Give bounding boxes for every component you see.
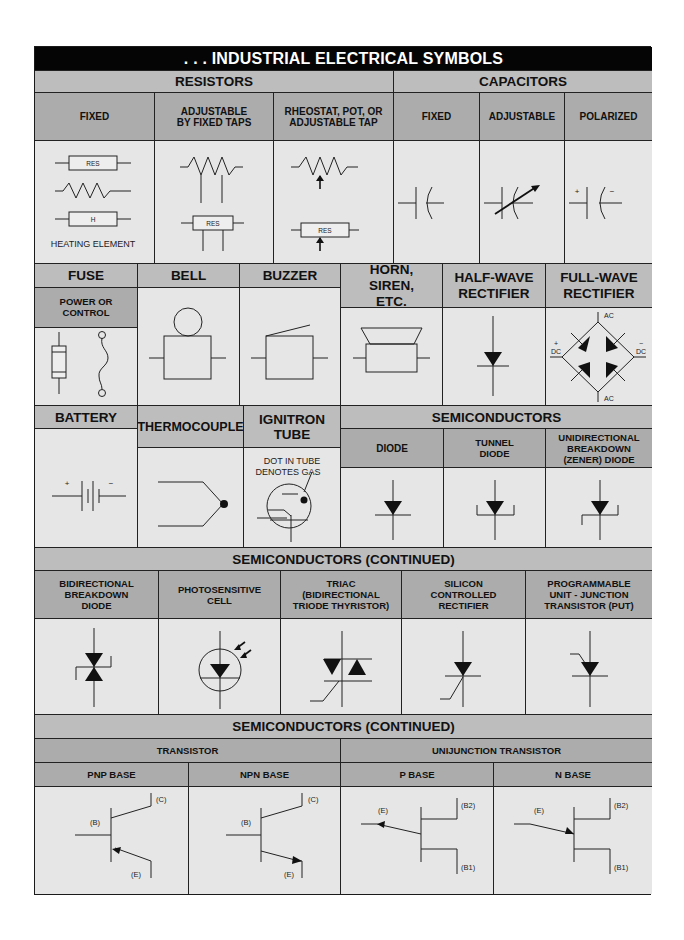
zener-diode-icon [546, 468, 652, 548]
triac-symbol [281, 619, 402, 715]
pnp-symbol: (C) (B) (E) [35, 787, 189, 894]
fuse-header: FUSE [35, 264, 138, 288]
bell-header: BELL [138, 264, 240, 288]
ujt-header: UNIJUNCTION TRANSISTOR [341, 739, 652, 763]
photosensitive-header: PHOTOSENSITIVE CELL [159, 571, 281, 619]
ignitron-symbol: DOT IN TUBE DENOTES GAS [244, 448, 341, 548]
semiconductors-continued-header-1: SEMICONDUCTORS (CONTINUED) [35, 548, 652, 571]
tunnel-diode-symbol [444, 468, 546, 548]
rheostat-symbols: RES [274, 141, 394, 264]
pnp-header: PNP BASE [35, 763, 189, 787]
svg-text:DC: DC [551, 348, 561, 355]
capacitor-fixed-symbol [394, 141, 480, 264]
svg-text:−: − [639, 340, 643, 347]
ignitron-tube-icon: DOT IN TUBE DENOTES GAS [244, 448, 341, 548]
svg-text:(E): (E) [378, 806, 389, 815]
capacitor-polarized-icon: + − [565, 141, 652, 264]
battery-header: BATTERY [35, 406, 138, 429]
tunnel-diode-icon [444, 468, 546, 548]
svg-text:DOT IN TUBE: DOT IN TUBE [264, 456, 321, 466]
rheostat-icon: RES [274, 141, 394, 264]
thermocouple-symbol [138, 448, 244, 548]
svg-text:(B): (B) [241, 818, 252, 827]
chart-title: . . . INDUSTRIAL ELECTRICAL SYMBOLS [35, 47, 652, 71]
diode-symbol [341, 468, 444, 548]
p-base-ujt-icon: (B2) (B1) (E) [341, 787, 494, 894]
capacitor-fixed-header: FIXED [394, 93, 480, 141]
bidirectional-symbol [35, 619, 159, 715]
put-icon [526, 619, 652, 715]
ignitron-header: IGNITRON TUBE [244, 406, 341, 448]
resistor-fixed-icon: RES H HEATING ELEMENT [35, 141, 155, 264]
svg-text:H: H [91, 216, 96, 223]
buzzer-icon [240, 288, 341, 406]
triac-header: TRIAC (BIDIRECTIONAL TRIODE THYRISTOR) [281, 571, 402, 619]
bell-icon [138, 288, 240, 406]
svg-text:(C): (C) [156, 795, 167, 804]
fuse-sub-header: POWER OR CONTROL [35, 288, 138, 328]
svg-text:(E): (E) [131, 870, 142, 879]
resistors-header: RESISTORS [35, 71, 394, 93]
svg-text:−: − [109, 479, 114, 488]
scr-header: SILICON CONTROLLED RECTIFIER [402, 571, 526, 619]
svg-text:(B2): (B2) [614, 801, 629, 810]
buzzer-header: BUZZER [240, 264, 341, 288]
battery-icon: + − [35, 429, 138, 548]
svg-text:(E): (E) [534, 806, 545, 815]
bell-symbol [138, 288, 240, 406]
svg-text:(C): (C) [308, 795, 319, 804]
half-wave-symbol [443, 308, 546, 406]
svg-text:RES: RES [86, 160, 100, 167]
photosensitive-symbol [159, 619, 281, 715]
semiconductors-header: SEMICONDUCTORS [341, 406, 652, 429]
horn-symbol [341, 308, 443, 406]
bridge-rectifier-icon: AC AC + DC − DC [546, 308, 652, 406]
diode-icon [341, 468, 444, 548]
p-base-header: P BASE [341, 763, 494, 787]
pnp-transistor-icon: (C) (B) (E) [35, 787, 189, 894]
svg-text:(B1): (B1) [614, 863, 629, 872]
capacitors-header: CAPACITORS [394, 71, 652, 93]
photosensitive-cell-icon [159, 619, 281, 715]
capacitor-adjustable-icon [480, 141, 565, 264]
put-header: PROGRAMMABLE UNIT - JUNCTION TRANSISTOR … [526, 571, 652, 619]
resistor-fixed-symbols: RES H HEATING ELEMENT [35, 141, 155, 264]
n-base-header: N BASE [494, 763, 652, 787]
thermocouple-header: THERMOCOUPLE [138, 406, 244, 448]
npn-header: NPN BASE [189, 763, 341, 787]
capacitor-polarized-header: POLARIZED [565, 93, 652, 141]
full-wave-header: FULL-WAVE RECTIFIER [546, 264, 652, 308]
semiconductors-continued-header-2: SEMICONDUCTORS (CONTINUED) [35, 715, 652, 739]
svg-text:RES: RES [206, 220, 220, 227]
horn-icon [341, 308, 443, 406]
full-wave-symbol: AC AC + DC − DC [546, 308, 652, 406]
tunnel-diode-header: TUNNEL DIODE [444, 429, 546, 468]
symbol-chart: . . . INDUSTRIAL ELECTRICAL SYMBOLS RESI… [34, 46, 651, 895]
n-base-symbol: (B2) (B1) (E) [494, 787, 652, 894]
svg-text:DC: DC [636, 348, 646, 355]
capacitor-adjustable-header: ADJUSTABLE [480, 93, 565, 141]
resistor-fixed-header: FIXED [35, 93, 155, 141]
rheostat-header: RHEOSTAT, POT, OR ADJUSTABLE TAP [274, 93, 394, 141]
put-symbol [526, 619, 652, 715]
transistor-header: TRANSISTOR [35, 739, 341, 763]
diode-header: DIODE [341, 429, 444, 468]
scr-icon [402, 619, 526, 715]
svg-text:−: − [610, 187, 615, 196]
svg-text:+: + [554, 340, 558, 347]
half-wave-header: HALF-WAVE RECTIFIER [443, 264, 546, 308]
p-base-symbol: (B2) (B1) (E) [341, 787, 494, 894]
svg-text:AC: AC [604, 395, 614, 402]
resistor-taps-symbols: RES [155, 141, 274, 264]
fuse-symbols [35, 328, 138, 406]
svg-text:(E): (E) [284, 870, 295, 879]
zener-header: UNIDIRECTIONAL BREAKDOWN (ZENER) DIODE [546, 429, 652, 468]
buzzer-symbol [240, 288, 341, 406]
capacitor-fixed-icon [394, 141, 480, 264]
bidirectional-diode-icon [35, 619, 159, 715]
half-wave-diode-icon [443, 308, 546, 406]
npn-transistor-icon: (C) (B) (E) [189, 787, 341, 894]
bidirectional-header: BIDIRECTIONAL BREAKDOWN DIODE [35, 571, 159, 619]
svg-text:(B2): (B2) [461, 801, 476, 810]
capacitor-polarized-symbol: + − [565, 141, 652, 264]
